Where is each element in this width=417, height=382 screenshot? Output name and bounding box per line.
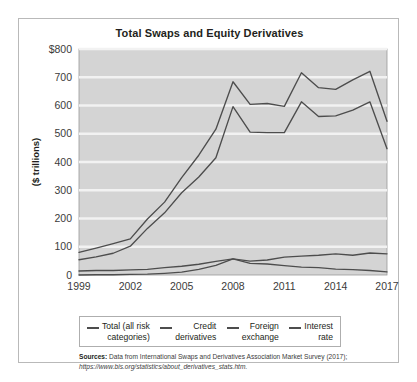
y-axis-title: ($ trillions) <box>30 138 41 187</box>
legend-swatch-foreign-exchange <box>227 327 239 329</box>
y-axis-tick-label: 300 <box>54 184 72 196</box>
x-axis-tick-label: 1999 <box>67 280 91 292</box>
line-chart: 0100200300400500600700$80019992002200520… <box>19 43 400 303</box>
source-url: https://www.bis.org/statistics/about_der… <box>79 363 247 370</box>
figure-page: Total Swaps and Equity Derivatives 01002… <box>0 0 417 382</box>
y-axis-tick-label: 700 <box>54 71 72 83</box>
source-text: Data from International Swaps and Deriva… <box>109 353 347 360</box>
y-axis-tick-label: 200 <box>54 212 72 224</box>
x-axis-tick-label: 2017 <box>375 280 399 292</box>
x-axis-tick-label: 2005 <box>170 280 194 292</box>
y-axis-tick-label: 0 <box>66 269 72 281</box>
y-axis-tick-label: $800 <box>49 43 73 55</box>
legend-swatch-credit-derivatives <box>160 327 172 329</box>
legend-item-interest-rate[interactable]: Interest rate <box>289 321 333 342</box>
legend-label-credit-derivatives: Credit derivatives <box>175 321 216 342</box>
x-axis-tick-label: 2014 <box>324 280 348 292</box>
legend-item-credit-derivatives[interactable]: Credit derivatives <box>160 321 216 342</box>
legend-item-total[interactable]: Total (all risk categories) <box>87 321 150 342</box>
chart-legend: Total (all risk categories) Credit deriv… <box>79 316 341 347</box>
legend-label-foreign-exchange: Foreign exchange <box>242 321 279 342</box>
y-axis-tick-label: 600 <box>54 99 72 111</box>
legend-label-total: Total (all risk categories) <box>102 321 150 342</box>
plot-area-wrapper: 0100200300400500600700$80019992002200520… <box>19 43 400 303</box>
x-axis-tick-label: 2008 <box>221 280 245 292</box>
page-title: Total Swaps and Equity Derivatives <box>19 27 400 39</box>
legend-item-foreign-exchange[interactable]: Foreign exchange <box>227 321 279 342</box>
x-axis-tick-label: 2011 <box>273 280 296 292</box>
legend-swatch-interest-rate <box>289 327 301 329</box>
chart-figure-frame: Total Swaps and Equity Derivatives 01002… <box>18 18 399 363</box>
legend-swatch-total <box>87 327 99 329</box>
x-axis-tick-label: 2002 <box>119 280 143 292</box>
y-axis-tick-label: 100 <box>54 240 72 252</box>
y-axis-tick-label: 500 <box>54 127 72 139</box>
source-note: Sources: Data from International Swaps a… <box>79 352 397 372</box>
source-label: Sources: <box>79 353 107 360</box>
y-axis-tick-label: 400 <box>54 156 72 168</box>
legend-label-interest-rate: Interest rate <box>304 321 333 342</box>
